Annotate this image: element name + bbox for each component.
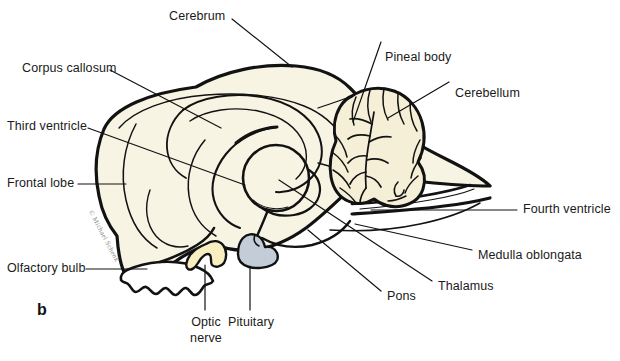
label-pineal-body: Pineal body — [385, 50, 451, 66]
panel-letter-b: b — [37, 301, 47, 319]
leader-cerebrum — [232, 19, 292, 67]
label-pituitary: Pituitary — [228, 315, 274, 331]
label-cerebrum: Cerebrum — [169, 9, 225, 25]
brain-diagram-svg — [0, 0, 620, 361]
label-medulla-oblongata: Medulla oblongata — [478, 248, 582, 264]
olfactory-bulb-shape — [121, 262, 213, 295]
label-olfactory-bulb: Olfactory bulb — [7, 261, 86, 277]
brain-anatomy-figure: Cerebrum Corpus callosum Third ventricle… — [0, 0, 620, 361]
brain-outline-group — [96, 65, 490, 295]
label-thalamus: Thalamus — [438, 279, 494, 295]
label-pons: Pons — [387, 289, 416, 305]
label-optic-nerve: Optic nerve — [183, 315, 229, 346]
label-corpus-callosum: Corpus callosum — [22, 61, 117, 77]
leader-pons — [308, 230, 381, 291]
label-fourth-ventricle: Fourth ventricle — [523, 202, 611, 218]
label-frontal-lobe: Frontal lobe — [7, 176, 74, 192]
label-optic-nerve-line2: nerve — [190, 331, 222, 345]
label-third-ventricle: Third ventricle — [7, 119, 87, 135]
label-cerebellum: Cerebellum — [455, 86, 520, 102]
leader-medulla — [355, 224, 472, 250]
label-optic-nerve-line1: Optic — [191, 315, 221, 329]
medulla-lower-edge — [330, 203, 480, 231]
